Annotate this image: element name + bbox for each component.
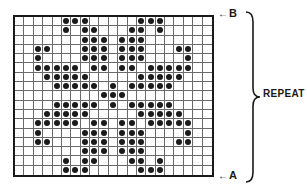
stitch-dot-icon — [82, 55, 88, 61]
grid-cell — [193, 91, 202, 100]
grid-cell — [137, 129, 146, 138]
grid-cell — [71, 119, 80, 128]
stitch-dot-icon — [72, 111, 78, 117]
stitch-dot-icon — [119, 120, 125, 126]
pattern-chart — [13, 15, 214, 177]
grid-cell — [184, 17, 193, 26]
grid-cell — [62, 156, 71, 165]
grid-cell — [184, 129, 193, 138]
grid-cell — [184, 45, 193, 54]
grid-cell — [118, 17, 127, 26]
grid-cell — [34, 82, 43, 91]
stitch-dot-icon — [35, 55, 41, 61]
grid-cell — [137, 73, 146, 82]
curly-brace-icon — [244, 10, 262, 184]
grid-cell — [34, 101, 43, 110]
grid-cell — [34, 91, 43, 100]
grid-cell — [43, 129, 52, 138]
stitch-dot-icon — [54, 111, 60, 117]
stitch-dot-icon — [63, 111, 69, 117]
grid-cell — [24, 82, 33, 91]
stitch-dot-icon — [101, 65, 107, 71]
stitch-dot-icon — [166, 74, 172, 80]
grid-cell — [156, 54, 165, 63]
grid-cell — [99, 147, 108, 156]
grid-cell — [90, 101, 99, 110]
stitch-dot-icon — [91, 120, 97, 126]
grid-cell — [156, 166, 165, 175]
marker-b: ←B — [218, 7, 237, 19]
stitch-dot-icon — [101, 92, 107, 98]
stitch-dot-icon — [176, 74, 182, 80]
grid-cell — [184, 54, 193, 63]
grid-cell — [15, 110, 24, 119]
grid-cell — [137, 82, 146, 91]
grid-cell — [193, 17, 202, 26]
stitch-dot-icon — [129, 37, 135, 43]
grid-cell — [165, 101, 174, 110]
grid-cell — [165, 54, 174, 63]
stitch-dot-icon — [129, 83, 135, 89]
stitch-dot-icon — [91, 37, 97, 43]
grid-cell — [71, 54, 80, 63]
grid-cell — [184, 101, 193, 110]
grid-cell — [174, 17, 183, 26]
stitch-dot-icon — [119, 130, 125, 136]
grid-cell — [99, 73, 108, 82]
grid-cell — [146, 156, 155, 165]
grid-cell — [137, 54, 146, 63]
grid-cell — [24, 63, 33, 72]
grid-cell — [146, 26, 155, 35]
grid-cell — [34, 110, 43, 119]
grid-cell — [203, 36, 212, 45]
stitch-dot-icon — [129, 148, 135, 154]
stitch-dot-icon — [72, 65, 78, 71]
grid-cell — [203, 110, 212, 119]
grid-cell — [165, 73, 174, 82]
grid-cell — [156, 17, 165, 26]
grid-cell — [137, 45, 146, 54]
grid-cell — [43, 36, 52, 45]
grid-cell — [193, 26, 202, 35]
grid-cell — [53, 17, 62, 26]
grid-cell — [81, 26, 90, 35]
grid-cell — [15, 101, 24, 110]
grid-cell — [90, 166, 99, 175]
stitch-dot-icon — [166, 111, 172, 117]
grid-cell — [99, 119, 108, 128]
grid-cell — [137, 26, 146, 35]
grid-cell — [53, 54, 62, 63]
grid-cell — [146, 129, 155, 138]
grid-cell — [81, 147, 90, 156]
grid-cell — [90, 129, 99, 138]
grid-cell — [165, 36, 174, 45]
grid-cell — [174, 36, 183, 45]
grid-cell — [90, 138, 99, 147]
grid-cell — [24, 26, 33, 35]
stitch-dot-icon — [63, 102, 69, 108]
grid-cell — [165, 17, 174, 26]
grid-cell — [34, 45, 43, 54]
grid-cell — [43, 73, 52, 82]
grid-cell — [118, 101, 127, 110]
grid-cell — [109, 73, 118, 82]
grid-cell — [128, 110, 137, 119]
grid-cell — [53, 147, 62, 156]
grid-cell — [203, 26, 212, 35]
stitch-dot-icon — [110, 83, 116, 89]
grid-cell — [146, 17, 155, 26]
stitch-dot-icon — [138, 167, 144, 173]
grid-cell — [165, 26, 174, 35]
grid-cell — [156, 138, 165, 147]
stitch-dot-icon — [176, 46, 182, 52]
grid-cell — [165, 82, 174, 91]
grid-cell — [81, 17, 90, 26]
grid-cell — [156, 91, 165, 100]
grid-cell — [24, 73, 33, 82]
grid-cell — [53, 119, 62, 128]
grid-cell — [156, 45, 165, 54]
stitch-dot-icon — [91, 46, 97, 52]
grid-cell — [81, 101, 90, 110]
stitch-dot-icon — [138, 148, 144, 154]
grid-cell — [53, 129, 62, 138]
